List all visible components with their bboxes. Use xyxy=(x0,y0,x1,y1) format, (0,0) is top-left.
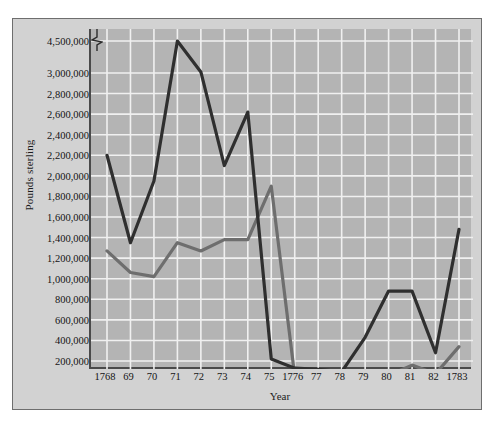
y-tick-label: 200,000 xyxy=(19,356,89,367)
x-axis-title: Year xyxy=(89,390,471,402)
y-tick-label: 2,400,000 xyxy=(19,129,89,140)
x-tick-label: 80 xyxy=(381,371,392,382)
y-tick-label: 2,200,000 xyxy=(19,150,89,161)
y-tick-label: 400,000 xyxy=(19,335,89,346)
x-tick-label: 72 xyxy=(194,371,205,382)
plot-area xyxy=(89,29,471,369)
x-tick-label: 81 xyxy=(405,371,416,382)
y-tick-label: 1,200,000 xyxy=(19,253,89,264)
axis-break-icon xyxy=(91,29,103,51)
x-tick-label: 75 xyxy=(264,371,275,382)
x-tick-label: 78 xyxy=(334,371,345,382)
x-tick-label: 1776 xyxy=(282,371,303,382)
chart-figure: Pounds sterling 4,500,0003,000,0002,800,… xyxy=(12,18,482,410)
y-tick-label: 600,000 xyxy=(19,314,89,325)
x-tick-label: 79 xyxy=(358,371,369,382)
y-tick-label: 4,500,000 xyxy=(19,36,89,47)
series-line-gray-series xyxy=(107,186,459,369)
y-axis-tick-labels: 4,500,0003,000,0002,800,0002,600,0002,40… xyxy=(19,19,89,411)
y-tick-label: 2,800,000 xyxy=(19,88,89,99)
y-tick-label: 2,600,000 xyxy=(19,109,89,120)
x-tick-label: 82 xyxy=(428,371,439,382)
y-tick-label: 1,600,000 xyxy=(19,212,89,223)
x-tick-label: 73 xyxy=(217,371,228,382)
x-tick-label: 1768 xyxy=(95,371,116,382)
x-tick-label: 1783 xyxy=(447,371,468,382)
y-tick-label: 1,000,000 xyxy=(19,273,89,284)
y-tick-label: 1,800,000 xyxy=(19,191,89,202)
x-tick-label: 71 xyxy=(170,371,181,382)
x-axis-tick-labels: 17686970717273747517767778798081821783 xyxy=(89,371,471,391)
x-tick-label: 74 xyxy=(241,371,252,382)
chart-canvas xyxy=(91,29,473,369)
y-tick-label: 800,000 xyxy=(19,294,89,305)
y-tick-label: 2,000,000 xyxy=(19,170,89,181)
x-tick-label: 77 xyxy=(311,371,322,382)
y-tick-label: 3,000,000 xyxy=(19,68,89,79)
x-tick-label: 70 xyxy=(147,371,158,382)
y-tick-label: 1,400,000 xyxy=(19,232,89,243)
x-tick-label: 69 xyxy=(123,371,134,382)
